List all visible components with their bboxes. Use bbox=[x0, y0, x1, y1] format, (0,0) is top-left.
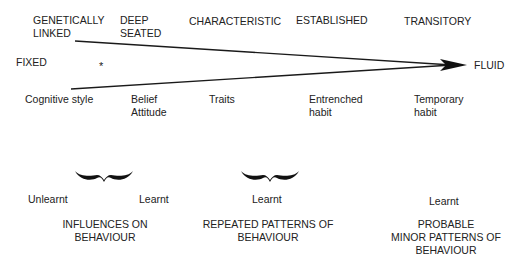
brace-icon bbox=[241, 171, 299, 182]
label-line: GENETICALLY bbox=[33, 14, 105, 27]
label-line: Entrenched bbox=[309, 93, 363, 106]
label-line: habit bbox=[309, 106, 363, 119]
label-belief-attitude: Belief Attitude bbox=[131, 93, 167, 119]
label-temporary-habit: Temporary habit bbox=[414, 93, 464, 119]
caption-line: INFLUENCES ON bbox=[44, 218, 166, 231]
label-traits: Traits bbox=[209, 93, 235, 106]
label-line: Temporary bbox=[414, 93, 464, 106]
note-unlearnt: Unlearnt bbox=[28, 193, 68, 206]
label-line: TRANSITORY bbox=[404, 15, 471, 28]
caption-line: BEHAVIOUR bbox=[44, 231, 166, 244]
label-line: Cognitive style bbox=[25, 93, 93, 106]
label-line: DEEP bbox=[120, 14, 161, 27]
caption-line: PROBABLE bbox=[384, 218, 508, 231]
caption-influences-on-behaviour: INFLUENCES ON BEHAVIOUR bbox=[44, 218, 166, 244]
label-line: CHARACTERISTIC bbox=[189, 15, 281, 28]
label-line: Traits bbox=[209, 93, 235, 106]
caption-probable-minor-patterns: PROBABLE MINOR PATTERNS OF BEHAVIOUR bbox=[384, 218, 508, 257]
caption-line: BEHAVIOUR bbox=[198, 231, 338, 244]
label-cognitive-style: Cognitive style bbox=[25, 93, 93, 106]
label-line: ESTABLISHED bbox=[296, 14, 368, 27]
lower-converging-line bbox=[71, 65, 452, 89]
label-line: Belief bbox=[131, 93, 167, 106]
label-deep-seated: DEEP SEATED bbox=[120, 14, 161, 40]
label-line: LINKED bbox=[33, 27, 105, 40]
label-genetically-linked: GENETICALLY LINKED bbox=[33, 14, 105, 40]
label-fixed: FIXED bbox=[16, 56, 47, 69]
label-transitory: TRANSITORY bbox=[404, 15, 471, 28]
label-fluid: FLUID bbox=[474, 59, 504, 72]
label-established: ESTABLISHED bbox=[296, 14, 368, 27]
caption-line: REPEATED PATTERNS OF bbox=[198, 218, 338, 231]
label-line: SEATED bbox=[120, 27, 161, 40]
label-line: Attitude bbox=[131, 106, 167, 119]
note-learnt: Learnt bbox=[139, 193, 169, 206]
note-learnt: Learnt bbox=[252, 193, 282, 206]
label-entrenched-habit: Entrenched habit bbox=[309, 93, 363, 119]
caption-line: BEHAVIOUR bbox=[384, 244, 508, 257]
note-learnt: Learnt bbox=[429, 195, 459, 208]
upper-converging-line bbox=[75, 41, 452, 65]
star-marker-icon: * bbox=[99, 61, 103, 72]
caption-line: MINOR PATTERNS OF bbox=[384, 231, 508, 244]
label-line: habit bbox=[414, 106, 464, 119]
label-characteristic: CHARACTERISTIC bbox=[189, 15, 281, 28]
brace-icon bbox=[75, 171, 133, 182]
caption-repeated-patterns: REPEATED PATTERNS OF BEHAVIOUR bbox=[198, 218, 338, 244]
